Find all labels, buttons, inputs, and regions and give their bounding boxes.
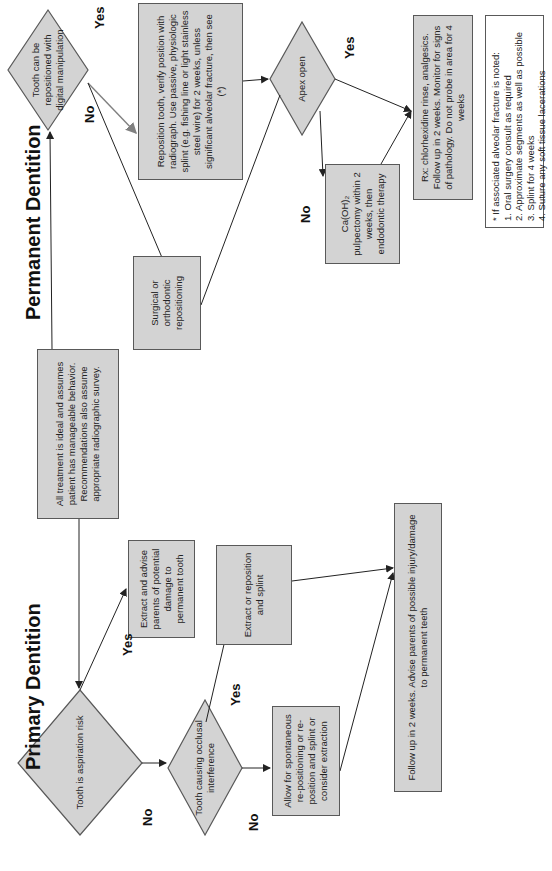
extract-advise-box: Extract and advise parents of potential … [128,540,195,638]
extract-reposition-box: Extract or reposition and splint [216,545,292,645]
primary-dentition-title: Primary Dentition [22,603,45,770]
digital-no-label: No [82,106,97,123]
occlusal-interference-label: Tooth causing occlusal interference [185,713,225,823]
permanent-dentition-title: Permanent Dentition [22,124,45,320]
flowchart-canvas: Primary Dentition Permanent Dentition Al… [0,0,552,871]
apex-no-label: No [298,206,313,223]
footnote-heading: * If associated alveolar fracture is not… [490,22,502,221]
reposition-tooth-box: Reposition tooth, verify position with r… [138,3,243,180]
allow-spontaneous-box: Allow for spontaneous re-positioning or … [272,706,340,816]
occlusal-yes-label: Yes [228,684,243,706]
assumptions-box: All treatment is ideal and assumes patie… [37,349,119,519]
aspiration-yes-label: Yes [120,634,135,656]
digital-yes-label: Yes [92,7,107,29]
occlusal-no-label: No [246,814,261,831]
follow-up-box: Follow up in 2 weeks. Advise parents of … [394,503,442,792]
surgical-repositioning-box: Surgical or orthodontic repositioning [133,256,201,350]
footnote-item: 4. Suture any soft tissue lacerations [536,22,548,221]
footnote-item: 3. Splint for 4 weeks [525,22,537,221]
footnote-item: 1. Oral surgery consult as required [502,22,514,221]
aspiration-risk-label: Tooth is aspiration risk [55,710,105,815]
footnote-item: 2. Approximate segments as well as possi… [513,22,525,221]
aspiration-no-label: No [140,809,155,826]
apex-yes-label: Yes [342,37,357,59]
rx-followup-box: Rx: chlorhexidine rinse, analgesics. Fol… [413,15,473,200]
apex-open-label: Apex open [290,39,314,119]
digital-manipulation-label: Tooth can be repositioned with digital m… [22,24,74,116]
alveolar-fracture-footnote: * If associated alveolar fracture is not… [485,15,544,228]
pulpectomy-box: Ca(OH)₂ pulpectomy within 2 weeks, then … [325,164,400,264]
